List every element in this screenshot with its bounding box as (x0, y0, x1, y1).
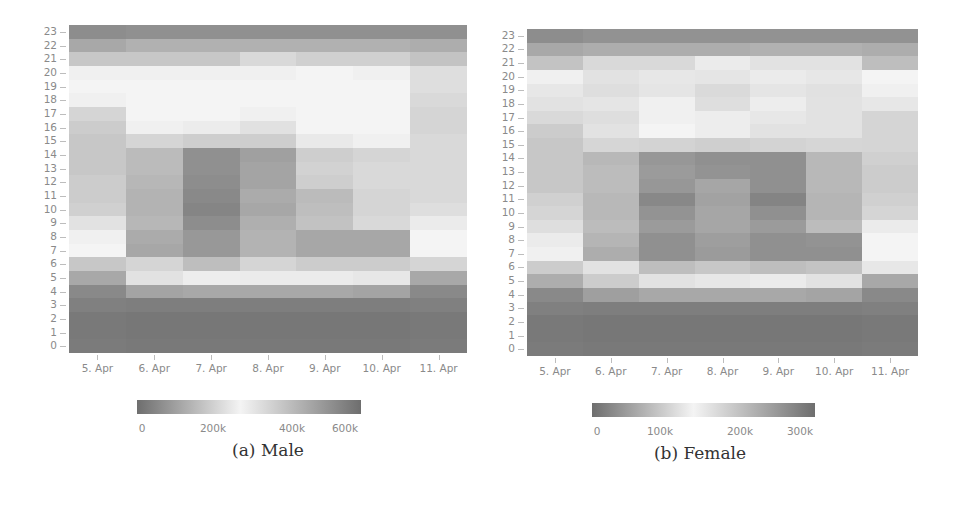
x-tick-mark (723, 358, 724, 363)
heatmap-cell (639, 97, 695, 111)
heatmap-cell (750, 261, 806, 275)
heatmap-cell (750, 70, 806, 84)
y-tick-label: 3 (491, 302, 515, 313)
heatmap-cell (583, 193, 639, 207)
heatmap-cell (639, 220, 695, 234)
colorbar-tick-label: 200k (715, 425, 765, 437)
x-tick-mark (890, 358, 891, 363)
heatmap-cell (639, 165, 695, 179)
heatmap-cell (639, 84, 695, 98)
y-tick-label: 13 (491, 166, 515, 177)
x-tick-label: 5. Apr (527, 365, 583, 377)
y-tick-label: 14 (491, 152, 515, 163)
heatmap-cell (639, 206, 695, 220)
heatmap-panel-female: 01234567891011121314151617181920212223 5… (0, 0, 957, 508)
x-tick-mark (611, 358, 612, 363)
heatmap-cell (862, 179, 918, 193)
heatmap-cell (583, 111, 639, 125)
y-tick-label: 18 (491, 98, 515, 109)
heatmap-cell (527, 165, 583, 179)
heatmap-cell (583, 261, 639, 275)
y-tick-label: 12 (491, 180, 515, 191)
heatmap-cell (527, 220, 583, 234)
heatmap-cell (583, 220, 639, 234)
heatmap-cell (862, 329, 918, 343)
heatmap-cell (806, 233, 862, 247)
y-tick-label: 0 (491, 343, 515, 354)
heatmap-cell (583, 329, 639, 343)
heatmap-cell (527, 329, 583, 343)
heatmap-cell (750, 315, 806, 329)
x-tick-label: 10. Apr (806, 365, 862, 377)
y-tick-label: 20 (491, 71, 515, 82)
colorbar-tick-label: 300k (775, 425, 825, 437)
heatmap-cell (639, 43, 695, 57)
heatmap-cell (527, 43, 583, 57)
heatmap-cell (639, 111, 695, 125)
heatmap-cell (527, 274, 583, 288)
heatmap-cell (527, 261, 583, 275)
heatmap-cell (750, 220, 806, 234)
heatmap-cell (750, 193, 806, 207)
heatmap-cell (862, 315, 918, 329)
x-tick-mark (667, 358, 668, 363)
heatmap-cell (806, 43, 862, 57)
x-tick-mark (834, 358, 835, 363)
heatmap-cell (806, 84, 862, 98)
heatmap-cell (583, 56, 639, 70)
heatmap-cell (862, 274, 918, 288)
heatmap-cell (750, 29, 806, 43)
heatmap-cell (695, 302, 751, 316)
y-tick-label: 21 (491, 57, 515, 68)
heatmap-cell (583, 138, 639, 152)
y-tick-mark (518, 267, 524, 268)
y-tick-mark (518, 227, 524, 228)
heatmap-cell (527, 315, 583, 329)
heatmap-cell (583, 152, 639, 166)
heatmap-cell (639, 247, 695, 261)
y-tick-mark (518, 322, 524, 323)
heatmap-cell (639, 70, 695, 84)
y-tick-label: 15 (491, 139, 515, 150)
heatmap-cell (750, 97, 806, 111)
heatmap-cell (527, 206, 583, 220)
y-tick-mark (518, 349, 524, 350)
y-tick-mark (518, 90, 524, 91)
y-tick-mark (518, 145, 524, 146)
heatmap-cell (862, 193, 918, 207)
heatmap-cell (862, 111, 918, 125)
y-tick-mark (518, 104, 524, 105)
heatmap-cell (527, 111, 583, 125)
heatmap-cell (695, 138, 751, 152)
y-tick-label: 19 (491, 84, 515, 95)
heatmap-cell (527, 124, 583, 138)
heatmap-cell (750, 138, 806, 152)
heatmap-cell (639, 233, 695, 247)
heatmap-cell (527, 97, 583, 111)
heatmap-cell (695, 84, 751, 98)
heatmap-cell (750, 165, 806, 179)
heatmap-cell (695, 124, 751, 138)
heatmap-cell (527, 179, 583, 193)
x-tick-label: 7. Apr (639, 365, 695, 377)
y-tick-mark (518, 131, 524, 132)
heatmap-cell (639, 274, 695, 288)
heatmap-cell (862, 247, 918, 261)
y-tick-label: 22 (491, 43, 515, 54)
heatmap-cell (695, 329, 751, 343)
heatmap-cell (583, 302, 639, 316)
heatmap-cell (750, 206, 806, 220)
heatmap-cell (583, 70, 639, 84)
heatmap-cell (695, 288, 751, 302)
y-tick-mark (518, 186, 524, 187)
heatmap-cell (639, 124, 695, 138)
y-tick-mark (518, 172, 524, 173)
heatmap-cell (750, 56, 806, 70)
heatmap-cell (583, 342, 639, 356)
heatmap-cell (862, 56, 918, 70)
heatmap-cell (862, 152, 918, 166)
heatmap-cell (639, 56, 695, 70)
heatmap-cell (639, 138, 695, 152)
heatmap-cell (583, 29, 639, 43)
y-tick-label: 8 (491, 234, 515, 245)
